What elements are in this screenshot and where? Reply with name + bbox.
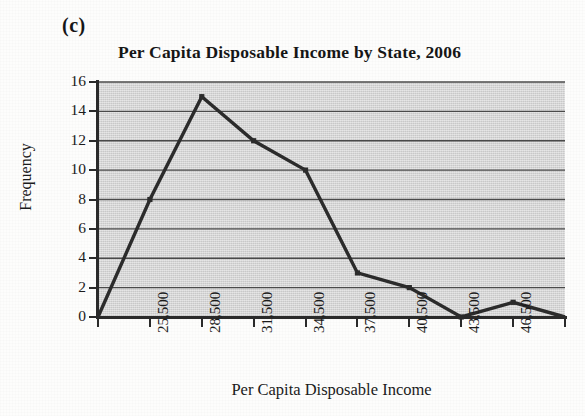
plot-area [98, 82, 565, 317]
x-tick-label: 28,500 [208, 292, 223, 333]
data-point-marker [251, 138, 256, 143]
y-tick-mark [89, 287, 97, 289]
y-tick-mark [89, 199, 97, 201]
x-tick-label: 25,500 [156, 292, 171, 333]
x-tick-label: 31,500 [260, 292, 275, 333]
figure-part-label: (c) [62, 14, 86, 37]
y-tick-label: 16 [50, 73, 86, 89]
x-tick-mark [460, 318, 462, 327]
x-tick-mark [149, 318, 151, 327]
y-tick-label: 6 [50, 220, 86, 236]
data-point-marker [355, 270, 360, 275]
series-line [98, 97, 565, 317]
x-tick-label: 40,500 [415, 292, 430, 333]
data-point-marker [303, 168, 308, 173]
y-tick-label: 14 [50, 102, 86, 118]
frequency-polygon-series [98, 82, 565, 317]
y-tick-mark [89, 81, 97, 83]
x-tick-mark [97, 318, 99, 327]
x-tick-mark [512, 318, 514, 327]
x-tick-mark [201, 318, 203, 327]
y-axis-title: Frequency [17, 117, 35, 237]
figure-container: (c) Per Capita Disposable Income by Stat… [0, 0, 585, 416]
x-tick-mark [408, 318, 410, 327]
x-tick-mark [253, 318, 255, 327]
y-tick-mark [89, 169, 97, 171]
data-point-marker [147, 197, 152, 202]
y-tick-label: 8 [50, 191, 86, 207]
y-tick-label: 12 [50, 132, 86, 148]
data-point-marker [199, 94, 204, 99]
x-tick-mark [564, 318, 566, 327]
x-tick-mark [305, 318, 307, 327]
y-tick-mark [89, 140, 97, 142]
y-tick-label: 0 [50, 308, 86, 324]
x-axis-title: Per Capita Disposable Income [98, 380, 565, 400]
data-point-marker [511, 300, 516, 305]
x-tick-label: 46,500 [519, 292, 534, 333]
x-tick-label: 37,500 [363, 292, 378, 333]
x-tick-label: 34,500 [312, 292, 327, 333]
y-tick-label: 4 [50, 249, 86, 265]
x-tick-label: 43,500 [467, 292, 482, 333]
y-tick-label: 10 [50, 161, 86, 177]
chart-title: Per Capita Disposable Income by State, 2… [118, 42, 538, 63]
y-tick-mark [89, 316, 97, 318]
data-point-marker [407, 285, 412, 290]
y-tick-label: 2 [50, 279, 86, 295]
x-tick-mark [356, 318, 358, 327]
y-tick-mark [89, 110, 97, 112]
y-tick-mark [89, 228, 97, 230]
y-tick-mark [89, 257, 97, 259]
